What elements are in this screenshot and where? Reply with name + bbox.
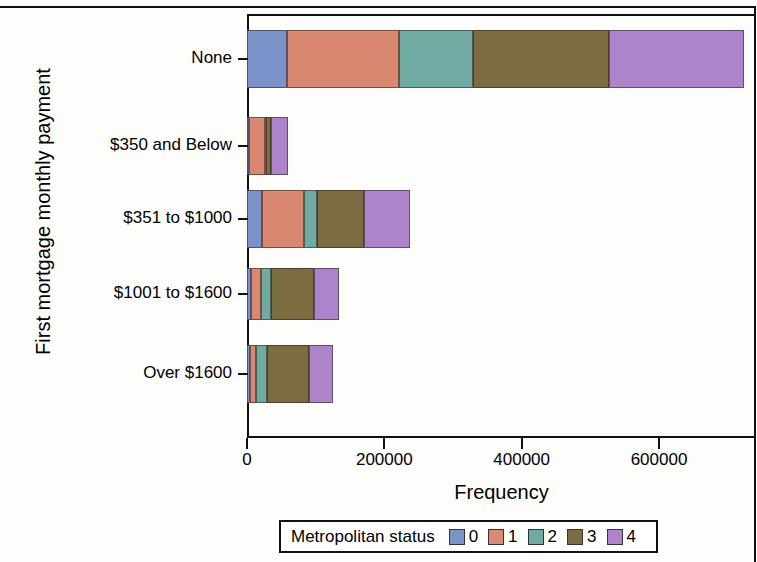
legend-label: 4 xyxy=(627,527,636,547)
bar-segment xyxy=(249,117,265,175)
y-tick-label: None xyxy=(191,48,232,68)
x-axis-title: Frequency xyxy=(247,481,756,504)
y-tick-label: $351 to $1000 xyxy=(123,208,232,228)
y-tick-mark xyxy=(238,218,248,220)
bar-segment xyxy=(267,345,309,403)
x-tick-label: 200000 xyxy=(356,450,413,470)
y-tick-label: $1001 to $1600 xyxy=(114,283,232,303)
bar-segment xyxy=(473,30,609,88)
bar-segment xyxy=(399,30,473,88)
bar-segment xyxy=(309,345,333,403)
y-tick-mark xyxy=(238,373,248,375)
y-tick-mark xyxy=(238,58,248,60)
legend-entry: 0 xyxy=(449,527,478,547)
y-tick-label: $350 and Below xyxy=(110,135,232,155)
bar-segment xyxy=(317,190,364,248)
bar-segment xyxy=(247,30,287,88)
bar-segment xyxy=(262,190,304,248)
legend-swatch xyxy=(528,529,544,545)
bar-segment xyxy=(364,190,410,248)
legend-entry: 4 xyxy=(607,527,636,547)
x-tick-label: 600000 xyxy=(631,450,688,470)
y-tick-mark xyxy=(238,145,248,147)
legend-entries: 01234 xyxy=(449,527,646,547)
y-tick-label: Over $1600 xyxy=(143,363,232,383)
legend-swatch xyxy=(488,529,504,545)
x-tick-label: 0 xyxy=(242,450,251,470)
bar-segment xyxy=(251,268,261,320)
legend-label: 2 xyxy=(548,527,557,547)
legend-entry: 3 xyxy=(567,527,596,547)
x-axis-line xyxy=(247,436,756,438)
plot-top-border xyxy=(247,14,756,16)
legend-label: 1 xyxy=(508,527,517,547)
bar-segment xyxy=(304,190,317,248)
stacked-bar-chart: First mortgage monthly payment None$350 … xyxy=(0,0,757,562)
legend-swatch xyxy=(607,529,623,545)
x-tick-mark xyxy=(246,438,248,449)
bar-segment xyxy=(609,30,744,88)
bar-segment xyxy=(287,30,399,88)
x-tick-mark xyxy=(383,438,385,449)
y-axis-title: First mortgage monthly payment xyxy=(32,47,55,377)
legend: Metropolitan status 01234 xyxy=(279,520,658,553)
bar-segment xyxy=(261,268,271,320)
legend-label: 0 xyxy=(469,527,478,547)
y-tick-mark xyxy=(238,293,248,295)
legend-entry: 2 xyxy=(528,527,557,547)
legend-swatch xyxy=(567,529,583,545)
legend-entry: 1 xyxy=(488,527,517,547)
bar-segment xyxy=(314,268,339,320)
legend-label: 3 xyxy=(587,527,596,547)
bar-segment xyxy=(256,345,267,403)
legend-title: Metropolitan status xyxy=(291,527,435,547)
legend-swatch xyxy=(449,529,465,545)
x-tick-mark xyxy=(658,438,660,449)
x-tick-label: 400000 xyxy=(493,450,550,470)
bar-segment xyxy=(271,268,314,320)
bar-segment xyxy=(247,190,262,248)
bar-segment xyxy=(271,117,288,175)
x-tick-mark xyxy=(521,438,523,449)
